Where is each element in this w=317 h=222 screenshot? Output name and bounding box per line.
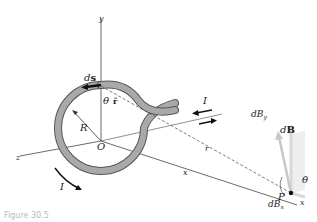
current-bottom-label: I xyxy=(59,181,65,192)
x-axis xyxy=(101,141,297,205)
radius-arrowhead xyxy=(72,110,78,115)
current-arrow-loop xyxy=(55,168,80,189)
theta-top-label: θ xyxy=(103,95,109,106)
theta-point-label: θ xyxy=(302,174,308,185)
dB-label: dB xyxy=(280,124,295,135)
y-axis-label: y xyxy=(98,14,104,23)
lead-line xyxy=(101,114,222,141)
current-arrowhead-out xyxy=(211,118,217,124)
r-distance-label: r xyxy=(205,144,210,153)
rhat-label: r̂ xyxy=(113,96,118,106)
current-loop-diagram: y z x ds θ r̂ I I R O r x P θ dB dBy dBx xyxy=(0,0,317,222)
current-arrow-out xyxy=(199,121,213,124)
figure-caption: Figure 30.5 xyxy=(4,211,49,220)
x-axis-label: x xyxy=(300,198,305,207)
current-arrowhead-in xyxy=(192,110,199,116)
radius-label: R xyxy=(79,122,88,133)
x-distance-label: x xyxy=(183,168,188,177)
point-P xyxy=(289,191,293,195)
ds-label: ds xyxy=(84,72,96,83)
r-vector-line xyxy=(101,86,291,193)
dBy-label: dBy xyxy=(251,109,267,121)
dB-arrow xyxy=(279,137,291,193)
origin-label: O xyxy=(97,141,105,152)
current-top-label: I xyxy=(202,95,208,106)
z-axis-label: z xyxy=(15,153,21,162)
